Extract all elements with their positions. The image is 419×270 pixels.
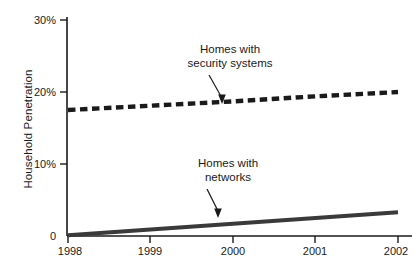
- annotation-arrow-security-systems: [209, 75, 226, 104]
- x-tick-label-2002: 2002: [384, 245, 408, 257]
- chart-container: Household Penetration 30% 20% 10% 0 1998…: [0, 0, 419, 270]
- annotation-arrow-networks: [207, 189, 222, 218]
- y-tick-label-20: 20%: [24, 86, 56, 98]
- annotation-security-line-2: security systems: [188, 56, 273, 70]
- x-tick-label-1998: 1998: [58, 245, 82, 257]
- line-chart-plot: [0, 0, 419, 270]
- x-axis-ticks: [68, 236, 398, 243]
- x-tick-label-2001: 2001: [303, 245, 327, 257]
- y-tick-label-10: 10%: [24, 158, 56, 170]
- series-line-security-systems: [68, 92, 398, 110]
- x-tick-label-2000: 2000: [221, 245, 245, 257]
- annotation-networks-line-1: Homes with: [198, 156, 258, 170]
- y-axis-ticks: [60, 20, 67, 164]
- annotation-label-security-systems: Homes with security systems: [188, 42, 273, 70]
- annotation-networks-line-2: networks: [198, 170, 258, 184]
- y-tick-label-0: 0: [24, 230, 56, 242]
- annotation-security-line-1: Homes with: [188, 42, 273, 56]
- y-tick-label-30: 30%: [24, 14, 56, 26]
- series-line-networks: [68, 212, 398, 235]
- x-tick-label-1999: 1999: [138, 245, 162, 257]
- annotation-label-networks: Homes with networks: [198, 156, 258, 184]
- y-axis-title: Household Penetration: [22, 49, 34, 209]
